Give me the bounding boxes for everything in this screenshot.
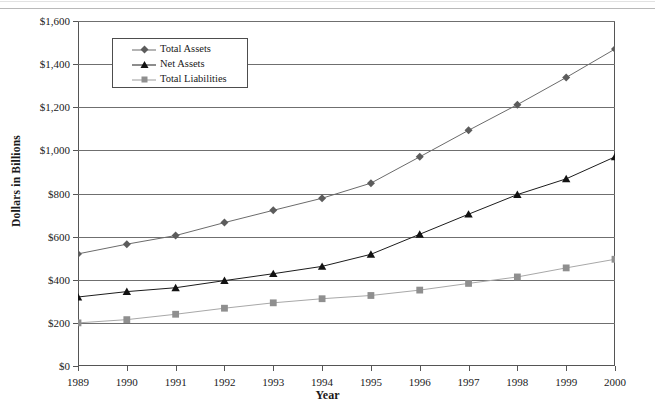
data-point [513, 191, 521, 198]
data-point [514, 274, 521, 281]
y-axis-tick-label: $1,000 [12, 144, 70, 156]
data-point [611, 45, 615, 53]
data-point [220, 219, 228, 227]
y-axis-tick-label: $1,600 [12, 15, 70, 27]
diamond-marker-icon [132, 44, 156, 56]
data-point [465, 280, 472, 287]
series-net-assets [78, 153, 615, 301]
data-point [464, 210, 472, 217]
data-point [123, 316, 130, 323]
x-axis-tick-label: 1995 [346, 376, 396, 388]
data-point [416, 230, 424, 237]
data-point [367, 179, 375, 187]
data-point [78, 319, 81, 326]
legend-label: Total Assets [160, 44, 211, 55]
data-point [367, 250, 375, 257]
x-axis-tick-label: 1992 [199, 376, 249, 388]
y-axis-tick-label: $1,200 [12, 101, 70, 113]
data-point [562, 73, 570, 81]
y-axis-tick-label: $200 [12, 317, 70, 329]
legend-label: Net Assets [160, 59, 205, 70]
x-axis-tick-label: 1999 [541, 376, 591, 388]
page-top-hairline [0, 1, 655, 2]
data-point [172, 311, 179, 318]
data-point [123, 240, 131, 248]
x-axis-tick [469, 366, 470, 371]
chart-page: Dollars in Billions $0$200$400$600$800$1… [0, 0, 655, 411]
x-axis-tick-label: 1996 [395, 376, 445, 388]
x-axis-tick [566, 366, 567, 371]
x-axis-tick [371, 366, 372, 371]
legend-item-total-liabilities: Total Liabilities [113, 72, 247, 87]
x-axis-tick [78, 366, 79, 371]
data-point [318, 194, 326, 202]
y-axis-tick-label: $800 [12, 188, 70, 200]
data-point [513, 101, 521, 109]
x-axis-tick [224, 366, 225, 371]
data-point [78, 250, 82, 258]
data-point [172, 232, 180, 240]
x-axis-tick [420, 366, 421, 371]
y-axis-tick-label: $600 [12, 231, 70, 243]
x-axis-tick-label: 1993 [248, 376, 298, 388]
data-point [269, 206, 277, 214]
data-point [416, 287, 423, 294]
data-point [416, 153, 424, 161]
x-axis-tick-label: 2000 [590, 376, 640, 388]
data-point [270, 299, 277, 306]
data-point [612, 256, 615, 263]
y-axis-title: Dollars in Billions [10, 116, 22, 246]
x-axis-tick [517, 366, 518, 371]
data-point [562, 175, 570, 182]
x-axis-tick-label: 1994 [297, 376, 347, 388]
x-axis-tick [322, 366, 323, 371]
data-point [563, 264, 570, 271]
data-point [611, 153, 615, 160]
x-axis-tick-label: 1998 [492, 376, 542, 388]
chart-legend: Total Assets Net Assets Total Liabilitie… [112, 38, 248, 88]
y-axis-tick-label: $0 [12, 360, 70, 372]
data-point [319, 295, 326, 302]
series-total-liabilities [78, 256, 615, 326]
data-point [221, 305, 228, 312]
x-axis-tick-label: 1991 [151, 376, 201, 388]
x-axis-tick-label: 1990 [102, 376, 152, 388]
x-axis-tick-label: 1997 [444, 376, 494, 388]
x-axis-tick [127, 366, 128, 371]
data-point [465, 126, 473, 134]
triangle-marker-icon [132, 59, 156, 71]
x-axis-tick-label: 1989 [53, 376, 103, 388]
page-top-rule [0, 8, 655, 9]
y-axis-tick-label: $400 [12, 274, 70, 286]
x-axis-tick [273, 366, 274, 371]
data-point [368, 292, 375, 299]
x-axis-tick [176, 366, 177, 371]
y-axis-tick-label: $1,400 [12, 58, 70, 70]
legend-item-total-assets: Total Assets [113, 42, 247, 57]
x-axis-tick [615, 366, 616, 371]
legend-label: Total Liabilities [160, 74, 227, 85]
x-axis-title: Year [0, 388, 655, 403]
legend-item-net-assets: Net Assets [113, 57, 247, 72]
square-marker-icon [132, 74, 156, 86]
